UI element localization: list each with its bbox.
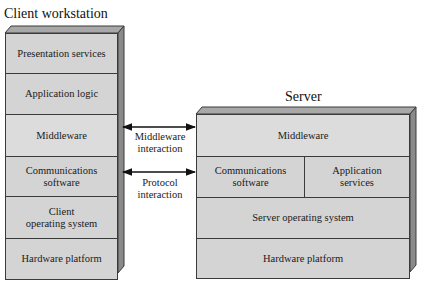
layer-label-line: Communications <box>215 165 287 176</box>
server-layer-hardware-platform: Hardware platform <box>197 238 409 278</box>
layer-label-line: software <box>232 177 268 188</box>
layer-label-line: services <box>340 177 374 188</box>
server-front-face: Middleware Communicationssoftware Applic… <box>196 114 410 279</box>
layer-label: Presentation services <box>17 48 105 60</box>
layer-label-line: Client <box>49 206 75 217</box>
label-line: interaction <box>138 189 183 200</box>
client-front-face: Presentation services Application logic … <box>5 33 118 280</box>
protocol-interaction-label: Protocol interaction <box>125 177 195 201</box>
server-layer-comms-and-app: Communicationssoftware Applicationservic… <box>197 156 409 197</box>
server-layer-application-services: Applicationservices <box>305 157 409 197</box>
layer-label: Hardware platform <box>21 253 101 265</box>
client-workstation-stack: Presentation services Application logic … <box>5 33 118 280</box>
server-layer-operating-system: Server operating system <box>197 197 409 238</box>
layer-label-line: Communications <box>26 165 98 176</box>
client-layer-operating-system: Clientoperating system <box>6 196 117 238</box>
layer-label: Server operating system <box>252 212 353 224</box>
middleware-interaction-label: Middleware interaction <box>125 131 195 155</box>
server-layer-middleware: Middleware <box>197 115 409 156</box>
server-title: Server <box>285 89 322 105</box>
layer-label-line: operating system <box>26 218 97 229</box>
client-layer-communications-software: Communicationssoftware <box>6 156 117 196</box>
server-layer-communications-software: Communicationssoftware <box>197 157 305 197</box>
layer-label: Middleware <box>278 130 329 142</box>
layer-label: Hardware platform <box>263 253 343 265</box>
label-line: interaction <box>138 143 183 154</box>
client-layer-application-logic: Application logic <box>6 73 117 114</box>
layer-label-line: software <box>43 177 79 188</box>
layer-label: Middleware <box>36 130 87 142</box>
client-layer-middleware: Middleware <box>6 114 117 156</box>
label-line: Middleware <box>135 131 186 142</box>
client-layer-hardware-platform: Hardware platform <box>6 238 117 279</box>
client-layer-presentation-services: Presentation services <box>6 34 117 73</box>
label-line: Protocol <box>142 177 178 188</box>
client-workstation-title: Client workstation <box>4 6 108 22</box>
layer-label-line: Application <box>332 165 382 176</box>
server-stack: Middleware Communicationssoftware Applic… <box>196 114 410 279</box>
layer-label: Application logic <box>25 88 98 100</box>
